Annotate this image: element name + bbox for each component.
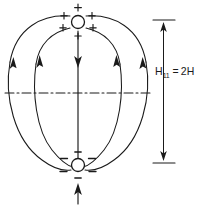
bottom-input-arrow	[74, 183, 82, 204]
figure-canvas	[0, 0, 206, 208]
field-line-inner-right	[83, 28, 121, 167]
dimension-line	[153, 20, 175, 163]
center-axis-line	[74, 31, 82, 158]
dimension-subscript: 11	[163, 72, 170, 79]
dimension-value: 2H	[181, 65, 195, 77]
dimension-symbol: H	[155, 65, 163, 77]
dipole-field-diagram: H11=2H	[0, 0, 206, 208]
dimension-label: H11=2H	[155, 65, 195, 79]
positive-pole	[72, 16, 85, 29]
field-line-inner-left	[35, 28, 73, 167]
negative-pole	[72, 159, 85, 172]
dimension-equals: =	[172, 65, 178, 77]
